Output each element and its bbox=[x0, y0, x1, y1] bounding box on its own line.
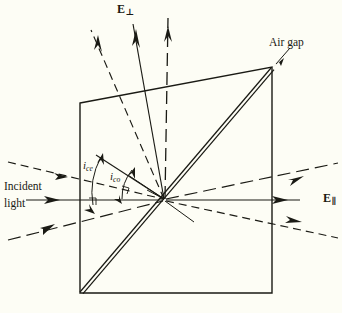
air-gap-label: Air gap bbox=[269, 36, 304, 49]
arrowhead-e-perp-main-up bbox=[132, 29, 140, 48]
incident-light-label: Incident light bbox=[4, 178, 42, 211]
incident-light-line-2: light bbox=[4, 195, 42, 212]
e-par-symbol: E bbox=[323, 191, 331, 205]
ray-e-perp-extraordinary-up bbox=[91, 30, 164, 199]
optics-diagram: Air gap Incident light E⊥ E∥ ice ico bbox=[0, 0, 342, 313]
ray-e-par-ordinary-out bbox=[166, 163, 338, 199]
e-perp-symbol: E bbox=[117, 2, 125, 16]
arrowhead-e-par-ordinary-out bbox=[288, 176, 304, 186]
construction-lines bbox=[96, 155, 194, 222]
e-perpendicular-label: E⊥ bbox=[117, 3, 134, 17]
e-parallel-label: E∥ bbox=[323, 192, 336, 206]
ray-e-par-extraordinary-out bbox=[166, 201, 338, 238]
ray-e-perp-ordinary-up bbox=[165, 18, 168, 199]
angle-i-ce-label: ice bbox=[83, 159, 93, 174]
angle-ce-subscript: ce bbox=[86, 164, 93, 173]
angle-i-co-label: ico bbox=[110, 170, 120, 185]
arrowhead-arc-ce-bottom bbox=[84, 204, 95, 214]
incident-light-line-1: Incident bbox=[4, 178, 42, 195]
air-gap-leader bbox=[272, 48, 290, 68]
arrowhead-e-par-extraordinary-out bbox=[285, 216, 302, 223]
outgoing-rays-right bbox=[166, 163, 338, 238]
angle-co-subscript: co bbox=[113, 175, 120, 184]
e-par-subscript: ∥ bbox=[331, 196, 336, 206]
arrowhead-air-gap-leader bbox=[272, 58, 284, 68]
arrowhead-ordinary-in bbox=[40, 224, 55, 235]
arrowhead-e-perp-extraordinary-up bbox=[94, 35, 102, 52]
e-perp-subscript: ⊥ bbox=[125, 7, 134, 17]
ray-e-perp-main-up bbox=[133, 24, 164, 199]
arrowhead-extraordinary-in bbox=[54, 173, 68, 180]
